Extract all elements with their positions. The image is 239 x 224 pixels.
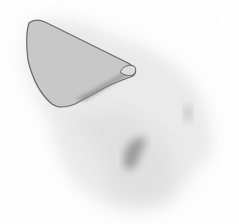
hot-spot-right xyxy=(184,104,192,122)
scan-image xyxy=(0,0,239,224)
